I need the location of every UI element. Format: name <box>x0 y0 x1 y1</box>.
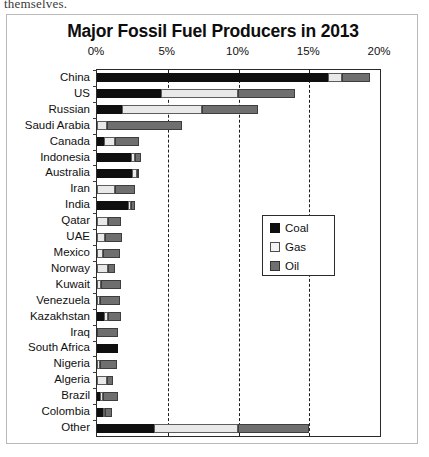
stacked-bar[interactable] <box>97 360 117 369</box>
bar-segment-coal[interactable] <box>97 73 328 82</box>
stacked-bar[interactable] <box>97 233 122 242</box>
bar-row <box>97 137 380 147</box>
bar-segment-oil[interactable] <box>100 360 117 369</box>
stacked-bar[interactable] <box>97 217 121 226</box>
bar-row <box>97 391 380 401</box>
category-label: Mexico <box>54 246 90 258</box>
bar-segment-oil[interactable] <box>97 328 118 337</box>
bar-segment-oil[interactable] <box>131 201 135 210</box>
category-label: Australia <box>45 166 90 178</box>
bar-segment-gas[interactable] <box>104 137 115 146</box>
category-label: Colombia <box>41 405 90 417</box>
stacked-bar[interactable] <box>97 249 120 258</box>
stacked-bar[interactable] <box>97 264 115 273</box>
legend-item-oil[interactable]: Oil <box>270 259 334 273</box>
bar-segment-gas[interactable] <box>97 121 107 130</box>
stacked-bar[interactable] <box>97 201 135 210</box>
bar-row <box>97 423 380 433</box>
bar-segment-oil[interactable] <box>103 392 119 401</box>
bar-segment-oil[interactable] <box>115 137 139 146</box>
bar-segment-coal[interactable] <box>97 105 122 114</box>
bar-segment-oil[interactable] <box>103 249 120 258</box>
category-label: Kazakhstan <box>30 310 90 322</box>
bar-segment-gas[interactable] <box>161 89 239 98</box>
stacked-bar[interactable] <box>97 105 258 114</box>
bar-segment-oil[interactable] <box>107 376 113 385</box>
stacked-bar[interactable] <box>97 137 139 146</box>
stacked-bar[interactable] <box>97 392 118 401</box>
stacked-bar[interactable] <box>97 328 118 337</box>
bar-segment-coal[interactable] <box>97 169 132 178</box>
y-axis-category-labels: ChinaUSRussianSaudi ArabiaCanadaIndonesi… <box>7 69 93 435</box>
category-label: Qatar <box>61 214 90 226</box>
bar-segment-oil[interactable] <box>238 89 295 98</box>
bar-row <box>97 105 380 115</box>
bar-row <box>97 375 380 385</box>
bar-segment-coal[interactable] <box>97 89 161 98</box>
x-tick-label-20: 20% <box>367 45 390 57</box>
bar-segment-coal[interactable] <box>97 424 154 433</box>
category-label: Indonesia <box>40 151 90 163</box>
stacked-bar[interactable] <box>97 121 182 130</box>
stacked-bar[interactable] <box>97 153 141 162</box>
bar-row <box>97 328 380 338</box>
stacked-bar[interactable] <box>97 408 112 417</box>
bar-segment-gas[interactable] <box>97 185 115 194</box>
stacked-bar[interactable] <box>97 169 139 178</box>
legend-item-coal[interactable]: Coal <box>270 221 334 235</box>
category-label: Norway <box>51 262 90 274</box>
legend-label: Gas <box>285 241 306 253</box>
stacked-bar[interactable] <box>97 73 370 82</box>
bar-segment-gas[interactable] <box>122 105 201 114</box>
bar-segment-oil[interactable] <box>135 153 141 162</box>
bar-segment-coal[interactable] <box>97 137 104 146</box>
category-label: Iraq <box>70 326 90 338</box>
stacked-bar[interactable] <box>97 312 121 321</box>
category-label: Nigeria <box>54 357 90 369</box>
category-label: South Africa <box>28 341 90 353</box>
bar-segment-coal[interactable] <box>97 201 128 210</box>
bar-row <box>97 343 380 353</box>
bar-segment-gas[interactable] <box>97 233 105 242</box>
bar-segment-gas[interactable] <box>154 424 239 433</box>
bar-row <box>97 200 380 210</box>
bar-segment-oil[interactable] <box>202 105 259 114</box>
bar-row <box>97 232 380 242</box>
stacked-bar[interactable] <box>97 376 113 385</box>
bar-segment-oil[interactable] <box>101 280 121 289</box>
bar-segment-oil[interactable] <box>107 121 182 130</box>
bar-segment-gas[interactable] <box>97 264 108 273</box>
stacked-bar[interactable] <box>97 424 309 433</box>
stacked-bar[interactable] <box>97 89 295 98</box>
bar-row <box>97 121 380 131</box>
category-label: US <box>74 87 90 99</box>
stacked-bar[interactable] <box>97 344 118 353</box>
bar-segment-gas[interactable] <box>97 376 107 385</box>
bar-segment-coal[interactable] <box>97 312 104 321</box>
bar-segment-oil[interactable] <box>105 233 122 242</box>
bar-segment-oil[interactable] <box>105 408 112 417</box>
bar-segment-oil[interactable] <box>238 424 309 433</box>
bar-segment-coal[interactable] <box>97 153 131 162</box>
bar-row <box>97 248 380 258</box>
bar-row <box>97 264 380 274</box>
bar-segment-oil[interactable] <box>342 73 370 82</box>
bar-segment-gas[interactable] <box>328 73 342 82</box>
category-label: Canada <box>50 135 90 147</box>
bar-segment-coal[interactable] <box>97 344 118 353</box>
stacked-bar[interactable] <box>97 296 120 305</box>
bar-segment-oil[interactable] <box>108 312 121 321</box>
x-tick-label-5: 5% <box>158 45 175 57</box>
stacked-bar[interactable] <box>97 280 121 289</box>
bar-segment-oil[interactable] <box>108 264 115 273</box>
stacked-bar[interactable] <box>97 185 135 194</box>
category-label: Saudi Arabia <box>25 119 90 131</box>
bar-row <box>97 407 380 417</box>
bar-segment-gas[interactable] <box>97 217 108 226</box>
bar-segment-oil[interactable] <box>108 217 121 226</box>
bar-segment-oil[interactable] <box>115 185 135 194</box>
bar-segment-oil[interactable] <box>100 296 120 305</box>
bar-row <box>97 312 380 322</box>
legend-item-gas[interactable]: Gas <box>270 240 334 254</box>
bar-segment-oil[interactable] <box>137 169 139 178</box>
